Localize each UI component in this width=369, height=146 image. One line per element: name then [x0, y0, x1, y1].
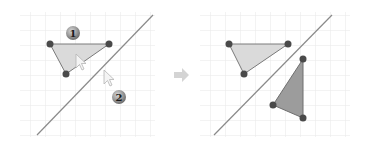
vertex-point [300, 56, 307, 63]
step-badge-1: 1 [66, 26, 80, 40]
grid-background-right [200, 12, 350, 137]
vertex-point [226, 41, 233, 48]
vertex-point [270, 102, 277, 109]
step-badge-2: 2 [112, 90, 126, 104]
vertex-point [63, 71, 70, 78]
svg-text:1: 1 [70, 28, 77, 39]
grid-background-left [20, 12, 155, 137]
vertex-point [241, 71, 248, 78]
vertex-point [300, 115, 307, 122]
arrow-right-icon [174, 68, 189, 82]
vertex-point [285, 41, 292, 48]
vertex-point [106, 41, 113, 48]
left-panel: 1 2 [20, 12, 155, 137]
right-panel [200, 12, 350, 137]
vertex-point [47, 41, 54, 48]
reflection-diagram: 1 2 [0, 0, 369, 146]
svg-text:2: 2 [116, 92, 123, 103]
